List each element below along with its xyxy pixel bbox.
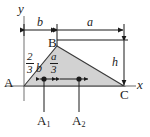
- y-axis-label: y: [18, 2, 24, 15]
- fraction-numerator-2: 2: [26, 51, 34, 63]
- dimension-label-b: b: [37, 16, 43, 28]
- fraction-two-thirds: 2 3: [26, 51, 34, 75]
- fraction-numerator-a: a: [50, 51, 58, 63]
- vertex-label-B: B: [48, 36, 57, 49]
- point-label-A2-subscript: 2: [81, 120, 85, 129]
- point-label-A1: A1: [37, 114, 50, 127]
- fraction-denominator-3: 3: [50, 64, 58, 76]
- point-label-A2: A2: [72, 114, 85, 127]
- vertex-label-C: C: [120, 88, 129, 101]
- fraction-suffix-b: b: [36, 62, 42, 74]
- vertex-label-A: A: [4, 76, 13, 89]
- dimension-label-a: a: [87, 16, 93, 28]
- dimension-label-h: h: [112, 56, 118, 68]
- fraction-a-over-3: a 3: [50, 51, 58, 75]
- fraction-denominator-3: 3: [26, 64, 34, 76]
- geometry-figure: y x b a h A B C 2 3 b a 3 A1 A2: [0, 0, 150, 137]
- x-axis-label: x: [137, 78, 143, 91]
- point-label-A1-base: A: [37, 113, 46, 128]
- point-label-A2-base: A: [72, 113, 81, 128]
- point-label-A1-subscript: 1: [46, 120, 50, 129]
